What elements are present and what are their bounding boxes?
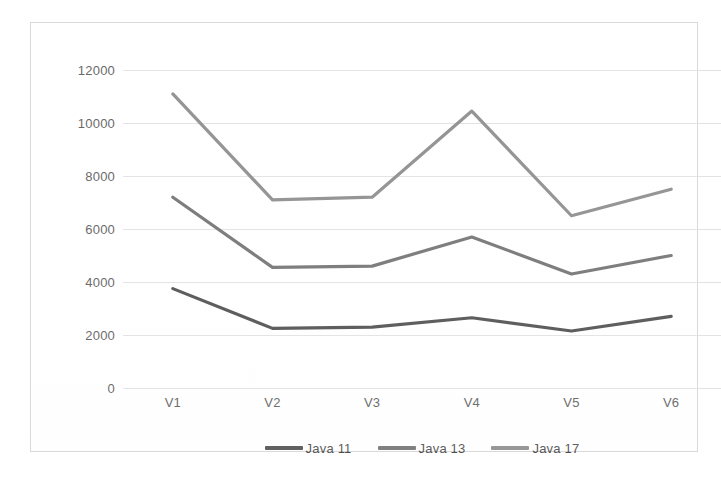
- legend-item-java-13[interactable]: Java 13: [378, 441, 466, 456]
- y-axis-tick-label: 0: [61, 381, 115, 396]
- x-axis-tick-label: V1: [165, 395, 181, 410]
- y-axis-tick-label: 2000: [61, 328, 115, 343]
- x-axis-tick-label: V4: [464, 395, 480, 410]
- legend-line-swatch-icon: [265, 446, 303, 450]
- y-axis-tick-label: 10000: [61, 116, 115, 131]
- x-axis-tick-label: V5: [563, 395, 579, 410]
- legend-label: Java 17: [532, 441, 579, 456]
- y-axis-tick-label: 12000: [61, 63, 115, 78]
- chart-legend: Java 11Java 13Java 17: [123, 435, 721, 461]
- legend-label: Java 11: [306, 441, 352, 456]
- y-axis-tick-label: 6000: [61, 222, 115, 237]
- line-series-java-17: [173, 94, 671, 216]
- legend-item-java-11[interactable]: Java 11: [265, 441, 352, 456]
- y-axis-tick-label: 4000: [61, 275, 115, 290]
- x-axis-tick-label: V2: [264, 395, 280, 410]
- legend-label: Java 13: [419, 441, 466, 456]
- legend-item-java-17[interactable]: Java 17: [491, 441, 579, 456]
- y-axis-tick-label: 8000: [61, 169, 115, 184]
- y-axis: 020004000600080001000012000: [61, 23, 115, 477]
- chart-frame: 020004000600080001000012000 V1V2V3V4V5V6…: [30, 22, 698, 452]
- gridline: [123, 388, 721, 389]
- x-axis: V1V2V3V4V5V6: [123, 395, 721, 417]
- legend-line-swatch-icon: [378, 446, 416, 450]
- x-axis-tick-label: V6: [663, 395, 679, 410]
- plot-area: [123, 70, 721, 388]
- line-series-group: [123, 70, 721, 388]
- line-series-java-11: [173, 289, 671, 331]
- x-axis-tick-label: V3: [364, 395, 380, 410]
- legend-line-swatch-icon: [491, 446, 529, 450]
